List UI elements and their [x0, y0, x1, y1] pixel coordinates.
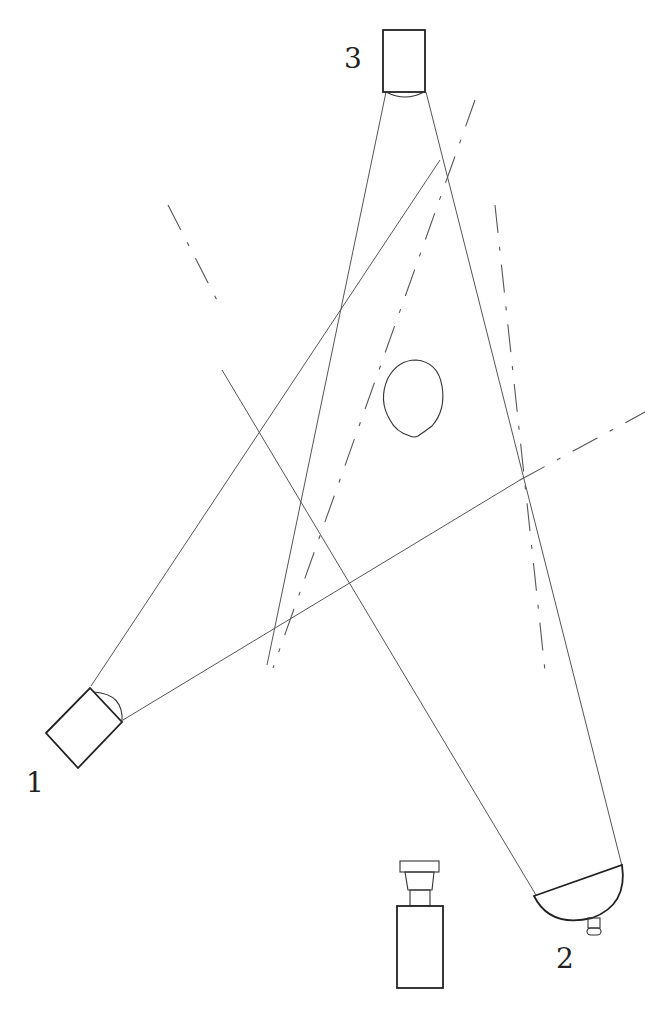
light-3-label: 3: [344, 42, 362, 75]
light-1-label: 1: [26, 766, 44, 799]
light-1-beam: [91, 160, 520, 720]
light-2-label: 2: [556, 942, 574, 975]
subject-head: [383, 360, 442, 437]
lighting-diagram: 3 1 2: [0, 0, 670, 1012]
light-2-unit: [534, 865, 623, 935]
dashed-axis-lines: [168, 100, 645, 680]
light-2-beam: [222, 370, 536, 895]
light-1-unit: [46, 688, 122, 768]
light-3-beam: [267, 92, 622, 866]
light-3-unit: [383, 30, 425, 97]
camera: [397, 861, 443, 988]
